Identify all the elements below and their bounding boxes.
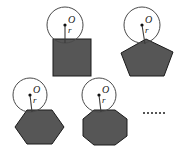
ellipsis-dot [163, 112, 165, 114]
center-point-dot [28, 93, 31, 96]
ellipsis-dot [155, 112, 157, 114]
radius-label-r: r [145, 25, 149, 35]
radius-line [99, 95, 101, 112]
panel-hexagon: O r [9, 76, 71, 148]
pentagon-diagram: O r [117, 4, 179, 80]
center-point-dot [97, 93, 100, 96]
hexagon-diagram: O r [9, 76, 71, 148]
pentagon-shape [121, 39, 173, 76]
hexagon-shape [15, 110, 64, 144]
ellipsis-dot [143, 112, 145, 114]
radius-line [30, 95, 32, 112]
square-diagram: O r [44, 4, 100, 80]
center-label-o: O [102, 84, 109, 95]
geometry-figure: O r O r O r O [0, 0, 181, 152]
center-label-o: O [145, 14, 152, 25]
radius-label-r: r [33, 95, 37, 105]
center-point-dot [63, 23, 66, 26]
octagon-shape [83, 110, 127, 145]
ellipsis-dot [147, 112, 149, 114]
continuation-ellipsis [143, 112, 165, 114]
square-shape [53, 39, 91, 76]
panel-pentagon: O r [117, 4, 179, 80]
panel-square: O r [44, 4, 100, 80]
center-label-o: O [33, 84, 40, 95]
ellipsis-dot [151, 112, 153, 114]
panel-octagon: O r [79, 76, 137, 148]
center-label-o: O [68, 14, 75, 25]
octagon-diagram: O r [79, 76, 137, 148]
radius-label-r: r [68, 25, 72, 35]
radius-label-r: r [102, 95, 106, 105]
ellipsis-dot [159, 112, 161, 114]
center-point-dot [140, 23, 143, 26]
